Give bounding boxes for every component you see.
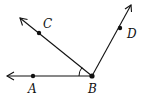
- ray-bd: [92, 5, 131, 76]
- point-b: [89, 73, 94, 78]
- point-a: [31, 74, 35, 78]
- label-a: A: [27, 82, 37, 96]
- angle-diagram: C D A B: [0, 0, 141, 96]
- label-c: C: [43, 17, 52, 31]
- label-b: B: [87, 82, 97, 96]
- point-c: [37, 31, 41, 35]
- label-d: D: [126, 27, 137, 41]
- point-d: [118, 26, 122, 30]
- angle-mark-abc: [79, 68, 82, 77]
- ray-bc: [20, 18, 92, 76]
